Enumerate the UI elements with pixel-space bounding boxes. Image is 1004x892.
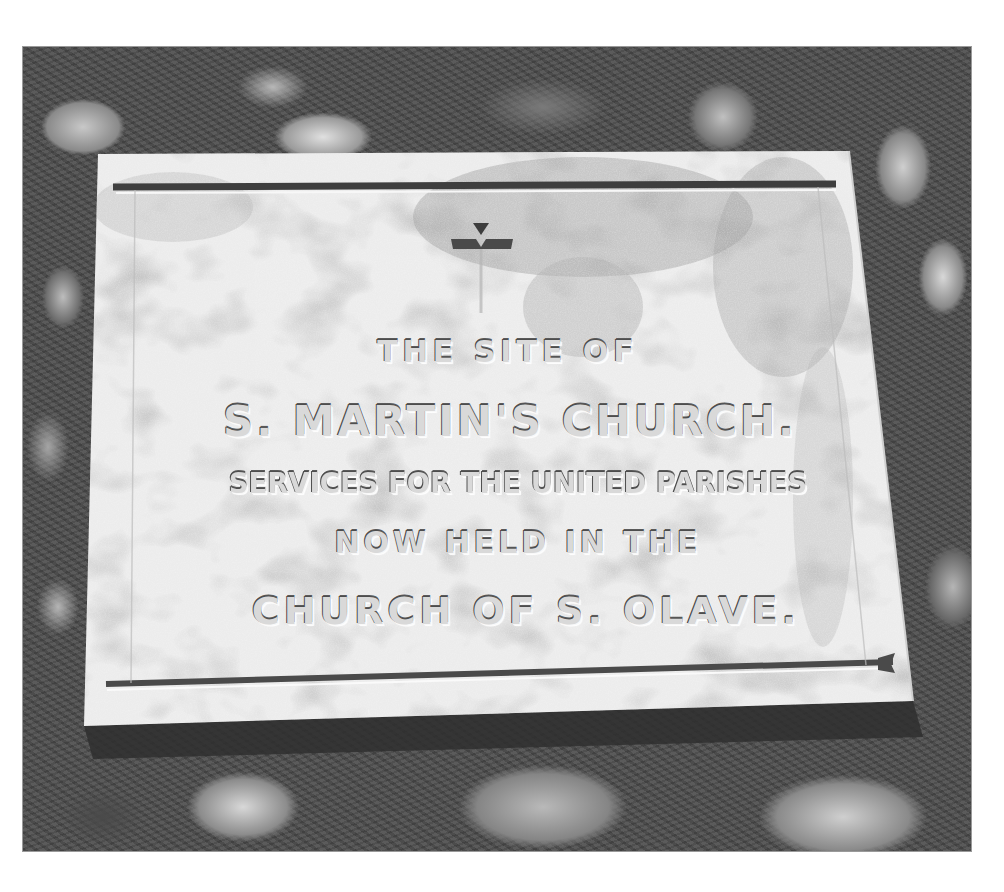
stone-plaque: [23, 47, 972, 852]
inscription-line-1: THE SITE OF: [33, 334, 972, 369]
inscription-line-2: S. MARTIN'S CHURCH.: [35, 397, 972, 446]
cross-icon: [443, 217, 523, 317]
inscription-line-4: NOW HELD IN THE: [43, 525, 972, 560]
photograph: THE SITE OF S. MARTIN'S CHURCH. SERVICES…: [22, 46, 972, 852]
inscription-line-5: CHURCH OF S. OLAVE.: [51, 589, 972, 633]
inscription-line-3: SERVICES FOR THE UNITED PARISHES: [53, 467, 973, 500]
